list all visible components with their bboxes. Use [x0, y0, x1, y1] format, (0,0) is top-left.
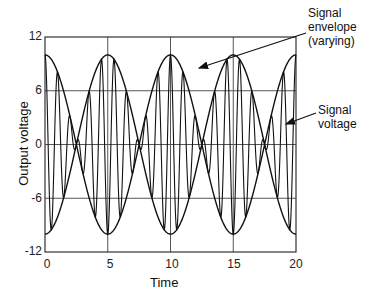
annotation-signal: Signal voltage — [318, 103, 357, 131]
arrow-to-signal — [286, 113, 316, 124]
y-tick-minus-6: -6 — [12, 191, 42, 205]
x-tick-15: 15 — [219, 257, 249, 271]
annotation-signal-line2: voltage — [318, 117, 357, 131]
y-tick-12: 12 — [12, 29, 42, 43]
y-axis-label: Output voltage — [16, 99, 31, 189]
x-tick-10: 10 — [157, 257, 187, 271]
y-tick-6: 6 — [12, 83, 42, 97]
annotation-envelope-line1: Signal — [308, 6, 357, 20]
x-axis-label: Time — [150, 275, 178, 290]
x-tick-5: 5 — [95, 257, 125, 271]
annotation-envelope-line3: (varying) — [308, 34, 357, 48]
annotation-signal-line1: Signal — [318, 103, 357, 117]
x-tick-20: 20 — [281, 257, 311, 271]
x-tick-0: 0 — [32, 257, 62, 271]
annotation-envelope-line2: envelope — [308, 20, 357, 34]
arrow-to-envelope — [199, 33, 306, 68]
y-tick-minus-12: -12 — [12, 244, 42, 258]
annotation-envelope: Signal envelope (varying) — [308, 6, 357, 48]
